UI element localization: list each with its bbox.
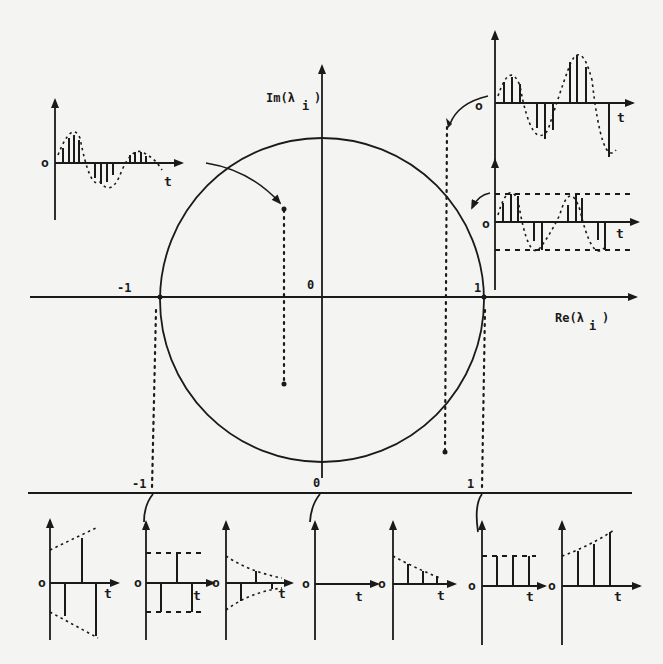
point-neg1 [158,295,163,300]
svg-text:o: o [475,98,483,113]
svg-text:o: o [378,576,386,591]
re-axis-label: Re(λ i ) [555,311,609,333]
plot-constant-alternating: o t [134,522,214,640]
pole-location-diagram: -1 0 1 Re(λ i ) Im(λ i ) o t [0,0,663,664]
svg-text:i: i [302,99,309,113]
plot-sustained-oscillation: o t [482,160,638,290]
svg-text:o: o [548,578,556,593]
svg-text:t: t [614,589,622,604]
svg-text:Im(λ: Im(λ [266,91,295,105]
plot-decaying-alternating: o t [212,522,292,640]
pole-outside-lower [443,450,448,455]
plot-decaying-monotone: o t [378,522,455,640]
plot-growing-monotone: o t [548,522,640,645]
plot-zero-response: o t [302,522,378,640]
svg-text:): ) [314,91,321,105]
svg-text:o: o [482,216,490,231]
svg-text:t: t [104,586,112,601]
dropline-neg1 [152,310,156,488]
tick-label-neg1: -1 [117,281,131,295]
svg-text:t: t [164,174,172,189]
svg-text:i: i [589,319,596,333]
svg-text:o: o [41,155,49,170]
svg-text:t: t [355,589,363,604]
svg-text:t: t [437,588,445,603]
svg-text:Re(λ: Re(λ [555,311,584,325]
hook-neg1 [144,494,153,522]
bottom-tick-0: 0 [313,476,320,490]
svg-text:t: t [616,226,624,241]
pole-inside-lower [282,382,287,387]
svg-text:o: o [134,575,142,590]
tick-label-1: 1 [474,281,481,295]
pole-inside-upper [282,207,287,212]
pole-pair-outside-link [445,127,447,450]
plot-growing-oscillation: o t [475,32,633,165]
bottom-tick-1: 1 [467,477,474,491]
arrow-to-circle-pole [472,193,490,208]
svg-text:t: t [526,589,534,604]
svg-text:o: o [212,575,220,590]
svg-text:t: t [617,110,625,125]
svg-text:o: o [38,575,46,590]
tick-label-0: 0 [307,278,314,292]
plot-constant: o t [468,522,545,645]
svg-text:o: o [302,576,310,591]
bottom-tick-neg1: -1 [132,477,146,491]
plot-growing-alternating: o t [38,520,118,640]
hook-0 [310,494,320,522]
im-axis-label: Im(λ i ) [266,91,321,113]
svg-text:o: o [468,578,476,593]
arrow-to-inside-pole [206,163,280,203]
bottom-real-axis: -1 0 1 [28,476,632,532]
dropline-pos1 [482,310,485,488]
svg-text:t: t [193,588,201,603]
svg-text:): ) [602,311,609,325]
point-pos1 [482,295,487,300]
plot-decaying-oscillation: o t [41,100,182,220]
